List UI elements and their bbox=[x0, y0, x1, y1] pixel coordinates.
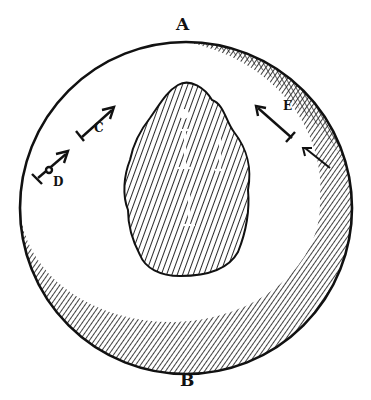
engraving-diagram bbox=[0, 0, 371, 400]
label-d: D bbox=[53, 176, 63, 188]
label-e: E bbox=[283, 100, 292, 112]
label-b: B bbox=[180, 372, 194, 389]
label-a: A bbox=[176, 16, 189, 33]
label-c: C bbox=[94, 122, 104, 134]
